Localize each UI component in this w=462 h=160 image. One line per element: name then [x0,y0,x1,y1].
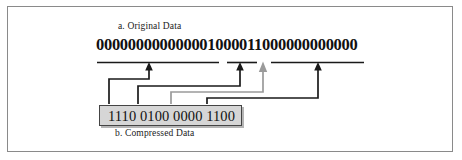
figure-root: a. Original Data 00000000000000100001100… [0,0,462,160]
caption-original-data: a. Original Data [118,21,181,31]
caption-compressed-data: b. Compressed Data [115,128,194,138]
figure-border-frame [7,6,453,152]
original-data-bitstream: 000000000000001000011000000000000 [96,35,357,54]
compressed-data-bitstream: 1110 0100 0000 1100 [100,106,243,127]
compressed-data-box: 1110 0100 0000 1100 [99,105,242,126]
